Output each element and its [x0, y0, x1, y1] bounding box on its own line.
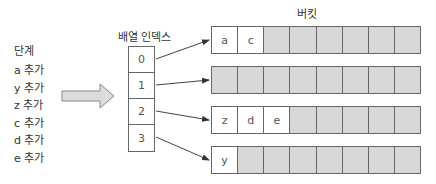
bucket-cell	[317, 67, 343, 93]
bucket-row-3: y	[211, 146, 421, 174]
bucket-cell	[395, 107, 420, 133]
bucket-cell	[212, 67, 238, 93]
index-array-title: 배열 인덱스	[118, 28, 172, 44]
pointer-arrow-2	[156, 111, 209, 120]
bucket-cell	[343, 107, 369, 133]
bucket-cell	[238, 147, 264, 173]
bucket-cell	[317, 107, 343, 133]
bucket-cell	[395, 147, 420, 173]
bucket-cell	[369, 67, 395, 93]
bucket-cell	[290, 67, 316, 93]
bucket-cell: d	[238, 107, 264, 133]
bucket-cell: y	[212, 147, 238, 173]
bucket-cell: z	[212, 107, 238, 133]
bucket-cell	[264, 147, 290, 173]
bucket-cell	[395, 67, 420, 93]
pointer-arrow-1	[156, 80, 209, 85]
bucket-cell: c	[238, 27, 264, 53]
bucket-cell	[343, 27, 369, 53]
block-arrow-icon	[62, 84, 114, 108]
index-cell: 1	[129, 73, 154, 99]
bucket-cell	[317, 27, 343, 53]
bucket-row-1	[211, 66, 421, 94]
pointer-arrow-3	[156, 137, 209, 160]
bucket-cell	[343, 67, 369, 93]
bucket-row-2: z d e	[211, 106, 421, 134]
bucket-cell	[369, 147, 395, 173]
bucket-cell: e	[264, 107, 290, 133]
bucket-cell	[369, 27, 395, 53]
index-cell: 0	[129, 47, 154, 73]
bucket-cell	[343, 147, 369, 173]
bucket-cell	[290, 147, 316, 173]
index-cell: 3	[129, 125, 154, 151]
index-cell: 2	[129, 99, 154, 125]
bucket-title: 버킷	[297, 5, 317, 21]
bucket-cell	[290, 27, 316, 53]
index-array: 0 1 2 3	[128, 46, 155, 152]
bucket-cell	[290, 107, 316, 133]
bucket-cell	[395, 27, 420, 53]
bucket-cell	[238, 67, 264, 93]
bucket-cell	[264, 67, 290, 93]
bucket-row-0: a c	[211, 26, 421, 54]
bucket-cell: a	[212, 27, 238, 53]
bucket-cell	[369, 107, 395, 133]
bucket-cell	[317, 147, 343, 173]
bucket-cell	[264, 27, 290, 53]
